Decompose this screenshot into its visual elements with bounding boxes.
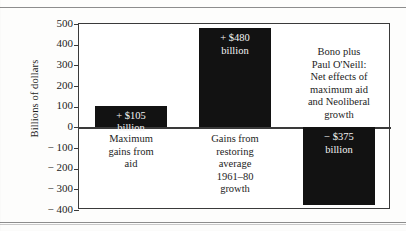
caption-line: Gains from (189, 133, 281, 146)
plot-area: 5004003002001000− 100− 200− 300− 400 + $… (78, 23, 390, 209)
y-tick-label: 200 (57, 79, 74, 91)
caption-line: Maximum (85, 133, 177, 146)
caption-line: restoring (189, 146, 281, 159)
figure-root: Billions of dollars 5004003002001000− 10… (0, 0, 406, 231)
y-tick-mark (74, 24, 79, 25)
y-tick-mark (74, 65, 79, 66)
caption-line: Bono plus (293, 46, 385, 59)
caption-line: growth (189, 183, 281, 196)
y-tick-mark (74, 189, 79, 190)
bar-value-label: + $480 (199, 32, 271, 45)
page-rule-bottom (0, 222, 406, 223)
bar-value-unit: billion (303, 144, 375, 157)
y-tick-mark (74, 45, 79, 46)
caption-line: average (189, 158, 281, 171)
bar-value-label: + $105 (95, 110, 167, 123)
y-tick-mark (74, 107, 79, 108)
bar-bono-plus-paul-oneill-net-effects: − $375billion (303, 127, 375, 205)
y-tick-label: − 100 (48, 141, 73, 153)
y-tick-label: − 300 (48, 182, 73, 194)
caption-line: and Neoliberal (293, 96, 385, 109)
caption-line: maximum aid (293, 84, 385, 97)
caption-line: Paul O'Neill: (293, 59, 385, 72)
y-tick-label: 400 (57, 37, 74, 49)
y-tick-mark (74, 210, 79, 211)
y-tick-label: 0 (68, 120, 74, 132)
bar-gains-from-restoring-average-growth: + $480billion (199, 28, 271, 127)
y-tick-label: 300 (57, 58, 74, 70)
caption-line: 1961–80 (189, 171, 281, 184)
caption-line: aid (85, 158, 177, 171)
y-tick-label: − 400 (48, 203, 73, 215)
bar-maximum-gains-from-aid: + $105billion (95, 106, 167, 128)
y-tick-label: − 200 (48, 161, 73, 173)
caption-bono-plus-paul-oneill-net-effects: Bono plusPaul O'Neill:Net effects ofmaxi… (293, 46, 385, 121)
caption-gains-from-restoring-average-growth: Gains fromrestoringaverage1961–80growth (189, 133, 281, 196)
page-rule-top (0, 7, 406, 8)
page-rule-bottom-secondary (0, 224, 406, 225)
caption-line: growth (293, 109, 385, 122)
y-tick-mark (74, 148, 79, 149)
y-tick-label: 100 (57, 99, 74, 111)
bar-value-unit: billion (199, 45, 271, 58)
caption-line: gains from (85, 146, 177, 159)
caption-maximum-gains-from-aid: Maximumgains fromaid (85, 133, 177, 171)
caption-line: Net effects of (293, 71, 385, 84)
y-tick-mark (74, 86, 79, 87)
y-axis-title: Billions of dollars (29, 19, 40, 179)
y-tick-mark (74, 169, 79, 170)
y-tick-label: 500 (57, 17, 74, 29)
bar-value-label: − $375 (303, 131, 375, 144)
